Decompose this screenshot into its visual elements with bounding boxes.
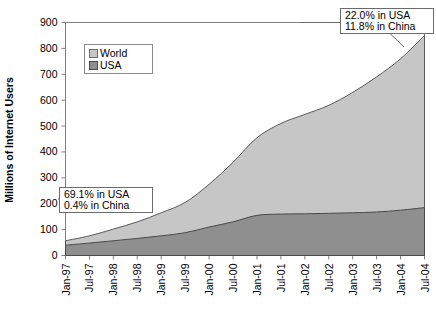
y-tick-label: 900 xyxy=(40,16,58,28)
x-tick-label: Jan-04 xyxy=(395,263,407,295)
y-tick-label: 500 xyxy=(40,120,58,132)
x-tick-label: Jan-03 xyxy=(347,263,359,295)
x-tick-label: Jul-99 xyxy=(179,263,191,292)
y-tick-label: 400 xyxy=(40,145,58,157)
legend-swatch-world xyxy=(90,50,98,58)
x-tick-label: Jul-03 xyxy=(371,263,383,292)
annotation-late-share: 22.0% in USA 11.8% in China xyxy=(300,9,434,48)
y-tick-label: 600 xyxy=(40,94,58,106)
annotation-early-line2: 0.4% in China xyxy=(64,199,130,211)
chart-legend: World USA xyxy=(85,45,153,74)
y-tick-label: 0 xyxy=(52,249,58,261)
x-axis-ticks: Jan-97Jul-97Jan-98Jul-98Jan-99Jul-99Jan-… xyxy=(60,256,431,296)
chart-container: 0100200300400500600700800900 Jan-97Jul-9… xyxy=(0,0,436,310)
y-tick-label: 200 xyxy=(40,197,58,209)
x-tick-label: Jul-98 xyxy=(131,263,143,292)
internet-users-area-chart: 0100200300400500600700800900 Jan-97Jul-9… xyxy=(0,0,436,310)
annotation-early-share: 69.1% in USA 0.4% in China xyxy=(58,188,153,213)
x-tick-label: Jan-97 xyxy=(60,263,72,295)
x-tick-label: Jul-04 xyxy=(419,263,431,292)
y-tick-label: 100 xyxy=(40,223,58,235)
y-tick-label: 800 xyxy=(40,42,58,54)
x-tick-label: Jul-02 xyxy=(323,263,335,292)
y-tick-label: 300 xyxy=(40,171,58,183)
annotation-late-pointer xyxy=(390,34,404,48)
legend-swatch-usa xyxy=(90,62,98,70)
x-tick-label: Jan-02 xyxy=(299,263,311,295)
x-tick-label: Jul-01 xyxy=(275,263,287,292)
y-tick-label: 700 xyxy=(40,68,58,80)
y-axis-ticks: 0100200300400500600700800900 xyxy=(40,16,66,261)
legend-label-usa: USA xyxy=(100,59,122,71)
x-tick-label: Jan-01 xyxy=(251,263,263,295)
y-axis-title: Millions of Internet Users xyxy=(3,77,15,203)
x-tick-label: Jan-00 xyxy=(203,263,215,295)
x-tick-label: Jul-00 xyxy=(227,263,239,292)
x-tick-label: Jan-99 xyxy=(155,263,167,295)
legend-label-world: World xyxy=(100,47,127,59)
x-tick-label: Jul-97 xyxy=(83,263,95,292)
x-tick-label: Jan-98 xyxy=(107,263,119,295)
annotation-late-line2: 11.8% in China xyxy=(345,20,416,32)
